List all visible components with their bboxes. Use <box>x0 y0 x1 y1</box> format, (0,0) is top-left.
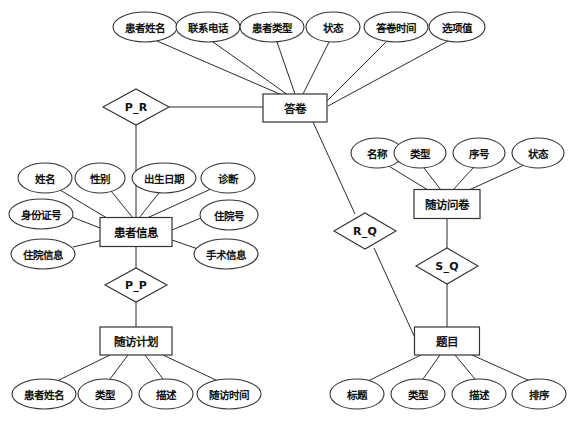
attribute-label: 类型 <box>410 148 431 160</box>
attribute-label: 姓名 <box>35 173 55 185</box>
attribute-label: 状态 <box>323 22 344 34</box>
entity-label: 患者信息 <box>114 226 159 240</box>
edge-pi_surgery-to-patient_info <box>172 240 198 249</box>
attribute-q_status[interactable]: 状态 <box>512 138 564 168</box>
edge-as_status-to-answer_sheet <box>303 42 329 94</box>
attribute-fp_followup_time[interactable]: 随访时间 <box>197 379 261 409</box>
entity-question[interactable]: 题目 <box>415 327 480 355</box>
entity-label: 随访问卷 <box>425 198 470 212</box>
edge-q_type-to-questionnaire <box>424 168 441 190</box>
attribute-qt_description[interactable]: 描述 <box>452 379 506 409</box>
entity-label: 答卷 <box>283 102 307 116</box>
edge-answer_sheet-to-r_q <box>313 122 355 214</box>
attribute-pi_birthday[interactable]: 出生日期 <box>132 163 196 193</box>
attribute-pi_gender[interactable]: 性别 <box>75 163 125 193</box>
attribute-label: 出生日期 <box>144 173 184 185</box>
attribute-label: 类型 <box>408 389 429 401</box>
attribute-label: 序号 <box>469 148 489 160</box>
er-diagram-canvas: P_RP_PR_QS_Q 答卷患者信息随访计划随访问卷题目 患者姓名联系电话患者… <box>0 0 581 422</box>
attribute-label: 性别 <box>90 173 110 185</box>
edge-as_phone-to-answer_sheet <box>213 42 288 95</box>
attribute-label: 诊断 <box>218 173 239 185</box>
entity-followup_plan[interactable]: 随访计划 <box>100 327 172 355</box>
attribute-pi_diagnosis[interactable]: 诊断 <box>201 163 255 193</box>
edge-q_seq-to-questionnaire <box>453 168 473 190</box>
attribute-label: 状态 <box>528 148 549 160</box>
relationship-label: P_R <box>125 101 148 114</box>
attribute-qt_type[interactable]: 类型 <box>391 379 445 409</box>
attribute-qt_order[interactable]: 排序 <box>512 379 566 409</box>
edge-pi_id_card-to-patient_info <box>72 217 100 228</box>
attribute-label: 身份证号 <box>21 209 61 221</box>
attribute-q_type[interactable]: 类型 <box>394 138 446 168</box>
attribute-label: 住院号 <box>214 210 244 222</box>
entity-patient_info[interactable]: 患者信息 <box>100 218 172 247</box>
edge-qt_order-to-question <box>472 355 530 381</box>
entity-layer: 答卷患者信息随访计划随访问卷题目 <box>100 94 480 355</box>
attribute-pi_name[interactable]: 姓名 <box>18 163 72 193</box>
attribute-label: 类型 <box>95 389 116 401</box>
relationship-s_q[interactable]: S_Q <box>416 248 478 284</box>
attribute-label: 联系电话 <box>188 22 229 34</box>
attribute-label: 答卷时间 <box>375 22 416 34</box>
attribute-qt_title[interactable]: 标题 <box>330 379 384 409</box>
edge-as_answer_time-to-answer_sheet <box>327 42 386 101</box>
attribute-label: 患者类型 <box>252 22 293 34</box>
edge-pi_gender-to-patient_info <box>111 191 133 218</box>
relationship-p_p[interactable]: P_P <box>105 268 167 302</box>
edge-qt_title-to-question <box>368 355 421 381</box>
attribute-fp_description[interactable]: 描述 <box>139 379 193 409</box>
edge-r_q-to-question <box>374 248 416 340</box>
entity-label: 随访计划 <box>114 335 158 349</box>
entity-questionnaire[interactable]: 随访问卷 <box>414 190 480 219</box>
attribute-label: 患者姓名 <box>125 22 165 34</box>
attribute-as_patient_name[interactable]: 患者姓名 <box>113 12 177 42</box>
edge-pi_ward_info-to-patient_info <box>73 240 103 247</box>
edge-q_name-to-questionnaire <box>387 165 428 190</box>
attribute-label: 排序 <box>529 389 550 401</box>
entity-label: 题目 <box>436 335 458 349</box>
attribute-as_status[interactable]: 状态 <box>306 12 360 42</box>
attribute-fp_type[interactable]: 类型 <box>78 379 132 409</box>
edge-qt_description-to-question <box>455 355 475 379</box>
attribute-label: 随访时间 <box>209 389 249 401</box>
entity-answer_sheet[interactable]: 答卷 <box>263 94 327 122</box>
edge-fp_patient_name-to-followup_plan <box>57 355 110 381</box>
attribute-pi_id_card[interactable]: 身份证号 <box>9 199 73 229</box>
attribute-label: 标题 <box>346 389 368 401</box>
edge-fp_type-to-followup_plan <box>110 355 128 379</box>
attribute-as_phone[interactable]: 联系电话 <box>176 12 240 42</box>
relationship-label: S_Q <box>435 260 458 273</box>
attribute-label: 住院信息 <box>23 249 64 261</box>
attribute-q_seq[interactable]: 序号 <box>453 138 505 168</box>
attribute-as_option_value[interactable]: 选项值 <box>429 12 485 42</box>
attribute-label: 选项值 <box>442 22 473 34</box>
attribute-as_answer_time[interactable]: 答卷时间 <box>364 12 428 42</box>
attribute-label: 患者姓名 <box>24 389 64 401</box>
edge-as_patient_type-to-answer_sheet <box>277 42 295 94</box>
attribute-label: 描述 <box>156 389 177 401</box>
attribute-pi_ward_info[interactable]: 住院信息 <box>11 239 75 269</box>
relationship-label: R_Q <box>353 225 377 238</box>
edge-pi_ward_no-to-patient_info <box>172 218 201 230</box>
attribute-as_patient_type[interactable]: 患者类型 <box>240 12 304 42</box>
attribute-fp_patient_name[interactable]: 患者姓名 <box>12 379 76 409</box>
attribute-label: 名称 <box>367 148 388 160</box>
edge-as_option_value-to-answer_sheet <box>328 41 448 106</box>
attribute-label: 手术信息 <box>206 249 247 261</box>
relationship-label: P_P <box>125 279 147 292</box>
attribute-pi_surgery[interactable]: 手术信息 <box>194 239 258 269</box>
edge-qt_type-to-question <box>423 355 440 379</box>
edge-fp_description-to-followup_plan <box>145 355 163 379</box>
edge-q_status-to-questionnaire <box>469 165 524 190</box>
relationship-r_q[interactable]: R_Q <box>334 213 396 249</box>
relationship-p_r[interactable]: P_R <box>103 89 169 125</box>
edge-as_patient_name-to-answer_sheet <box>157 41 282 95</box>
edge-fp_followup_time-to-followup_plan <box>163 355 218 381</box>
attribute-pi_ward_no[interactable]: 住院号 <box>200 200 258 230</box>
attribute-label: 描述 <box>469 389 490 401</box>
